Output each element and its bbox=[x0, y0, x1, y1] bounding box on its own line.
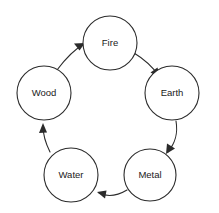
arrow-head-icon bbox=[166, 144, 175, 155]
edge-metal-to-water bbox=[97, 190, 127, 199]
node-label-metal: Metal bbox=[138, 169, 161, 180]
node-label-water: Water bbox=[59, 169, 84, 180]
node-metal[interactable]: Metal bbox=[124, 149, 176, 201]
edge-earth-to-metal bbox=[166, 121, 177, 154]
diagram-canvas: Fire Earth Metal Water Wood bbox=[0, 0, 219, 213]
node-label-wood: Wood bbox=[32, 87, 57, 98]
arrow-head-icon bbox=[39, 123, 47, 133]
five-elements-cycle-diagram: Fire Earth Metal Water Wood bbox=[0, 0, 219, 213]
node-earth[interactable]: Earth bbox=[145, 66, 199, 120]
edge-wood-to-fire bbox=[57, 43, 85, 70]
node-label-fire: Fire bbox=[102, 37, 118, 48]
node-wood[interactable]: Wood bbox=[17, 66, 71, 120]
node-fire[interactable]: Fire bbox=[83, 16, 137, 70]
node-label-earth: Earth bbox=[161, 87, 184, 98]
edge-water-to-wood bbox=[39, 123, 50, 152]
node-water[interactable]: Water bbox=[44, 148, 98, 202]
arrow-head-icon bbox=[97, 191, 107, 199]
